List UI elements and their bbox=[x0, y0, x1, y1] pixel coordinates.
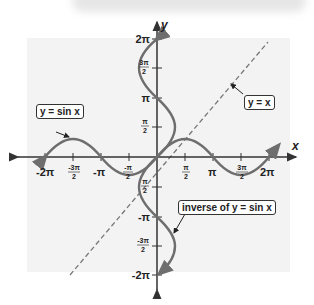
x-axis-label: x bbox=[291, 139, 300, 153]
svg-text:2: 2 bbox=[184, 173, 188, 180]
identity-line bbox=[70, 42, 268, 275]
y-tick-2pi: 2π bbox=[135, 33, 150, 45]
callout-identity: y = x bbox=[244, 95, 275, 110]
x-tick-pi: π bbox=[208, 166, 217, 178]
x-tick-2pi: 2π bbox=[260, 166, 275, 178]
svg-text:2: 2 bbox=[143, 127, 147, 134]
y-tick-neg-pi: -π bbox=[138, 211, 151, 223]
callout-inverse: inverse of y = sin x bbox=[178, 200, 276, 215]
callout-sin: y = sin x bbox=[36, 104, 84, 119]
svg-text:2: 2 bbox=[240, 173, 244, 180]
svg-text:π: π bbox=[183, 164, 189, 171]
svg-text:-π: -π bbox=[124, 164, 132, 171]
x-tick-neg-2pi: -2π bbox=[36, 166, 55, 178]
svg-text:π: π bbox=[142, 118, 148, 125]
svg-text:3π: 3π bbox=[237, 164, 247, 171]
y-tick-neg-2pi: -2π bbox=[132, 269, 151, 281]
svg-text:2: 2 bbox=[126, 173, 130, 180]
y-axis-label: y bbox=[160, 18, 169, 32]
svg-text:2: 2 bbox=[141, 246, 145, 253]
svg-text:2: 2 bbox=[72, 173, 76, 180]
svg-text:3π: 3π bbox=[139, 59, 149, 66]
svg-text:-3π: -3π bbox=[68, 164, 80, 171]
svg-text:2: 2 bbox=[143, 187, 147, 194]
svg-text:2: 2 bbox=[142, 68, 146, 75]
svg-text:-3π: -3π bbox=[137, 237, 149, 244]
graph: -2π -π π 2π -3π2 -π2 π2 3π2 2π π -π -2π … bbox=[0, 0, 314, 305]
y-tick-pi: π bbox=[142, 92, 151, 104]
x-tick-neg-pi: -π bbox=[93, 166, 106, 178]
svg-text:π: π bbox=[142, 178, 148, 185]
